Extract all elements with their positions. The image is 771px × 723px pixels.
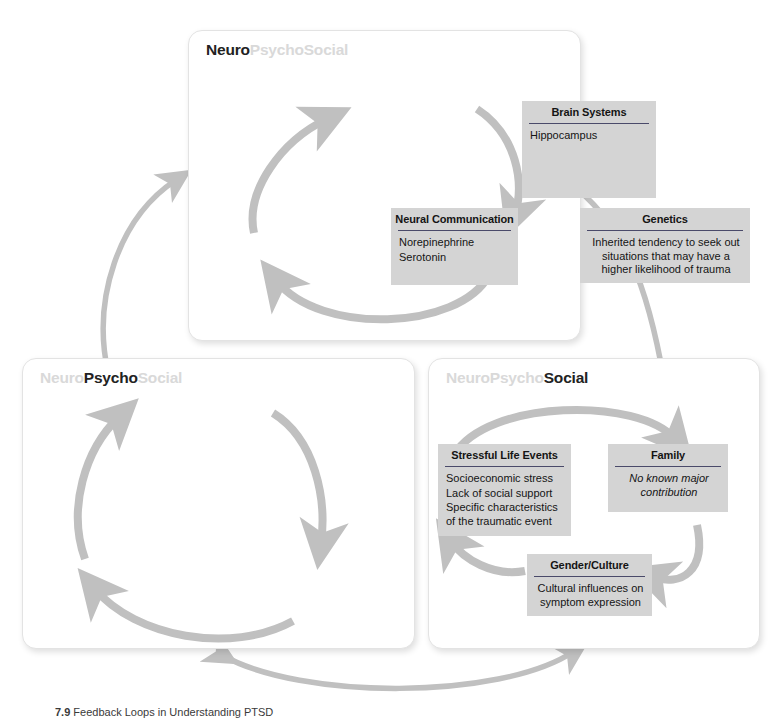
- box-genetics-heading: Genetics: [580, 208, 750, 230]
- box-brain-systems-heading: Brain Systems: [522, 101, 656, 123]
- title-segment-psycho: Psycho: [490, 369, 544, 386]
- list-item: No known major contribution: [616, 472, 722, 499]
- figure-canvas: NeuroPsychoSocial Brain Systems Hippocam…: [0, 0, 771, 723]
- arrow-psycho-to-social: [222, 652, 573, 688]
- box-genetics-body: Inherited tendency to seek out situation…: [580, 231, 750, 283]
- arrow-psycho-to-neuro: [103, 180, 176, 372]
- arrow-gender-to-stress: [451, 541, 525, 572]
- box-stressful-life-events-body: Socioeconomic stress Lack of social supp…: [438, 467, 571, 534]
- box-gender-culture-heading: Gender/Culture: [527, 554, 652, 576]
- social-panel-title: NeuroPsychoSocial: [446, 369, 588, 387]
- list-item: Serotonin: [399, 251, 512, 265]
- title-segment-social: Social: [138, 369, 182, 386]
- box-neural-communication[interactable]: Neural Communication Norepinephrine Sero…: [391, 208, 518, 285]
- arrow-neural-to-brain: [253, 119, 327, 233]
- figure-caption-label: 7.9: [55, 706, 70, 718]
- arrow-mental-to-behavior: [273, 413, 322, 543]
- box-brain-systems[interactable]: Brain Systems Hippocampus: [522, 101, 656, 198]
- list-item: Hippocampus: [530, 129, 650, 143]
- box-brain-systems-body: Hippocampus: [522, 124, 656, 149]
- arrow-behavior-to-affect: [95, 589, 293, 639]
- box-family-body: No known major contribution: [608, 467, 728, 505]
- title-segment-neuro: Neuro: [446, 369, 490, 386]
- figure-caption: 7.9 Feedback Loops in Understanding PTSD: [55, 706, 273, 718]
- list-item: Cultural influences on symptom expressio…: [535, 582, 646, 609]
- title-segment-psycho: Psycho: [84, 369, 138, 386]
- title-segment-psycho: Psycho: [250, 41, 304, 58]
- box-stressful-life-events[interactable]: Stressful Life Events Socioeconomic stre…: [438, 444, 571, 536]
- box-family[interactable]: Family No known major contribution: [608, 444, 728, 512]
- box-neural-communication-heading: Neural Communication: [391, 208, 518, 230]
- arrow-affect-to-mental: [78, 417, 119, 559]
- arrow-brain-to-genetics: [477, 109, 519, 213]
- social-panel: NeuroPsychoSocial Stressful Life Events …: [428, 358, 760, 649]
- box-neural-communication-body: Norepinephrine Serotonin: [391, 231, 518, 270]
- title-segment-neuro: Neuro: [206, 41, 250, 58]
- list-item: Specific characteristics of the traumati…: [446, 501, 565, 528]
- title-segment-neuro: Neuro: [40, 369, 84, 386]
- list-item: Lack of social support: [446, 487, 565, 501]
- box-gender-culture[interactable]: Gender/Culture Cultural influences on sy…: [527, 554, 652, 616]
- box-gender-culture-body: Cultural influences on symptom expressio…: [527, 577, 652, 615]
- psycho-panel: NeuroPsychoSocial Mental Processes and M…: [22, 358, 415, 649]
- box-genetics[interactable]: Genetics Inherited tendency to seek out …: [580, 208, 750, 283]
- psycho-panel-title: NeuroPsychoSocial: [40, 369, 182, 387]
- list-item: Socioeconomic stress: [446, 472, 565, 486]
- psycho-internal-arrows: [23, 359, 414, 648]
- box-stressful-life-events-heading: Stressful Life Events: [438, 444, 571, 466]
- figure-caption-text: Feedback Loops in Understanding PTSD: [73, 706, 273, 718]
- title-segment-social: Social: [544, 369, 588, 386]
- title-segment-social: Social: [304, 41, 348, 58]
- list-item: Inherited tendency to seek out situation…: [588, 236, 744, 277]
- arrow-family-to-gender: [653, 525, 699, 580]
- neuro-panel: NeuroPsychoSocial Brain Systems Hippocam…: [188, 30, 581, 341]
- list-item: Norepinephrine: [399, 236, 512, 250]
- box-family-heading: Family: [608, 444, 728, 466]
- neuro-panel-title: NeuroPsychoSocial: [206, 41, 348, 59]
